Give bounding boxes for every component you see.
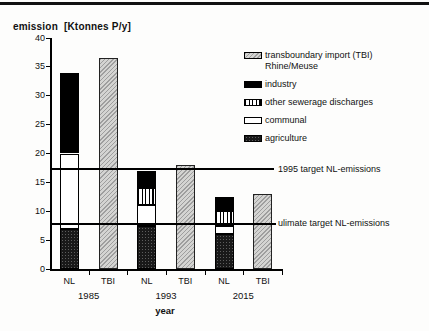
x-axis-tick xyxy=(89,271,90,275)
agriculture-swatch-icon xyxy=(244,135,262,142)
y-tick-label: 0 xyxy=(21,264,45,274)
x-column-label: NL xyxy=(141,276,153,286)
bar-segment-transboundary xyxy=(253,194,272,269)
x-year-label: 1985 xyxy=(78,290,99,301)
x-axis-tick xyxy=(166,271,167,275)
legend-row-tbi: transboundary import (TBI)Rhine/Meuse xyxy=(244,50,373,72)
legend-label: other sewerage discharges xyxy=(265,97,373,108)
x-year-label: 1993 xyxy=(155,290,176,301)
bar-segment-industry xyxy=(137,171,156,188)
y-axis-tick xyxy=(46,182,50,183)
target-line-0 xyxy=(50,168,274,170)
y-tick-label: 5 xyxy=(21,235,45,245)
y-axis-tick xyxy=(46,269,50,270)
bar-segment-transboundary xyxy=(176,165,195,269)
y-tick-label: 20 xyxy=(21,148,45,158)
legend-label-line1: transboundary import (TBI) xyxy=(265,50,373,60)
x-axis-tick xyxy=(282,271,283,275)
x-column-label: TBI xyxy=(101,276,115,286)
tbi-swatch-icon xyxy=(244,52,262,59)
legend-label: communal xyxy=(265,115,307,126)
legend-row-communal: communal xyxy=(244,115,373,126)
legend-row-agriculture: agriculture xyxy=(244,133,373,144)
x-column-label: NL xyxy=(64,276,76,286)
bar-segment-agriculture xyxy=(215,234,234,269)
x-axis-tick xyxy=(127,271,128,275)
y-tick-label: 35 xyxy=(21,61,45,71)
y-axis-tick xyxy=(46,240,50,241)
industry-swatch-icon xyxy=(244,81,262,88)
top-rule xyxy=(0,2,429,5)
x-column-label: TBI xyxy=(178,276,192,286)
bar-segment-agriculture xyxy=(137,226,156,269)
bar-segment-agriculture xyxy=(60,229,79,269)
y-tick-label: 30 xyxy=(21,90,45,100)
x-axis-tick xyxy=(205,271,206,275)
y-axis-tick xyxy=(46,66,50,67)
y-axis-tick xyxy=(46,95,50,96)
legend-label: transboundary import (TBI)Rhine/Meuse xyxy=(265,50,373,72)
communal-swatch-icon xyxy=(244,117,262,124)
phosphorus-emission-chart: emission [Ktonnes P/y] transboundary imp… xyxy=(0,0,429,331)
bar-segment-industry xyxy=(215,197,234,211)
y-axis xyxy=(50,38,52,271)
bar-segment-industry xyxy=(60,73,79,154)
legend-label: industry xyxy=(265,79,297,90)
legend-row-other-sewerage: other sewerage discharges xyxy=(244,97,373,108)
y-tick-label: 10 xyxy=(21,206,45,216)
legend-label: agriculture xyxy=(265,133,307,144)
y-tick-label: 15 xyxy=(21,177,45,187)
bar-segment-transboundary xyxy=(99,58,118,269)
y-tick-label: 25 xyxy=(21,119,45,129)
other-sewerage-swatch-icon xyxy=(244,99,262,106)
y-tick-label: 40 xyxy=(21,33,45,43)
x-column-label: NL xyxy=(218,276,230,286)
x-year-label: 2015 xyxy=(233,290,254,301)
target-line-1 xyxy=(50,223,276,225)
legend-row-industry: industry xyxy=(244,79,373,90)
bar-segment-communal xyxy=(60,154,79,229)
legend-label-line2: Rhine/Meuse xyxy=(265,61,318,71)
target-line-label: 1995 target NL-emissions xyxy=(278,164,381,174)
y-axis-tick xyxy=(46,153,50,154)
bar-segment-other xyxy=(137,188,156,205)
chart-title: emission [Ktonnes P/y] xyxy=(13,21,131,32)
y-axis-tick xyxy=(46,211,50,212)
target-line-label: ulimate target NL-emissions xyxy=(278,218,390,228)
bar-segment-communal xyxy=(215,226,234,235)
y-axis-tick xyxy=(46,124,50,125)
x-axis-tick xyxy=(243,271,244,275)
x-column-label: TBI xyxy=(256,276,270,286)
y-axis-tick xyxy=(46,38,50,39)
x-axis-title: year xyxy=(155,305,175,316)
legend: transboundary import (TBI)Rhine/Meuse in… xyxy=(244,50,373,151)
